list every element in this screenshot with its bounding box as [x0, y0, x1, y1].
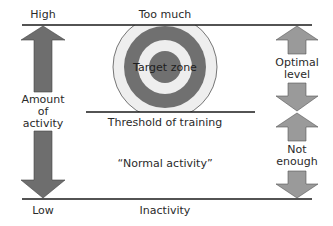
low-label: Low — [22, 205, 64, 217]
too-much-label: Too much — [125, 9, 205, 21]
inactivity-label: Inactivity — [125, 205, 205, 217]
threshold-label: Threshold of training — [100, 117, 230, 129]
optimal-level-label: Optimal level — [267, 57, 327, 81]
target-zone-label: Target zone — [125, 62, 205, 74]
high-label: High — [22, 9, 64, 21]
not-enough-label: Not enough — [267, 144, 327, 168]
normal-activity-label: “Normal activity” — [100, 158, 230, 170]
amount-of-activity-label: Amount of activity — [13, 94, 73, 130]
